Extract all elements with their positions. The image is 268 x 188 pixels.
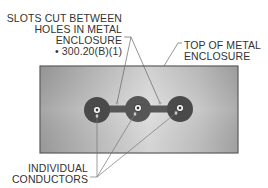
slots-label: SLOTS CUT BETWEEN HOLES IN METAL ENCLOSU… <box>7 13 122 57</box>
top-enclosure-leader <box>164 43 182 66</box>
slots-code-reference: • 300.20(B)(1) <box>7 46 122 57</box>
top-of-enclosure-label: TOP OF METAL ENCLOSURE <box>184 40 261 62</box>
conductors-label-line-2: CONDUCTORS <box>12 174 88 185</box>
top-label-line-2: ENCLOSURE <box>184 51 261 62</box>
conductors-label: INDIVIDUAL CONDUCTORS <box>12 163 88 185</box>
